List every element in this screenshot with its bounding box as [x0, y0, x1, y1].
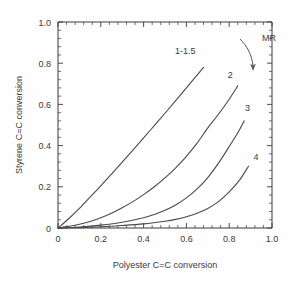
y-tick-label: 1.0 [38, 18, 51, 28]
curve-label-4: 4 [253, 152, 258, 162]
line-chart: 00.20.40.60.81.0 00.20.40.60.81.0 1-1.52… [0, 0, 296, 281]
y-tick-label: 0.6 [38, 100, 51, 110]
y-tick-label: 0.4 [38, 141, 51, 151]
curve-label-3: 3 [245, 103, 250, 113]
chart-figure: 00.20.40.60.81.0 00.20.40.60.81.0 1-1.52… [0, 0, 296, 281]
y-tick-label: 0.8 [38, 59, 51, 69]
mr-label: MR [262, 33, 276, 43]
x-tick-label: 0.6 [180, 234, 193, 244]
curve-label-1-1-5: 1-1.5 [175, 46, 196, 56]
x-tick-label: 0 [55, 234, 60, 244]
y-tick-label: 0 [46, 224, 51, 234]
x-tick-label: 0.8 [223, 234, 236, 244]
x-tick-label: 1.0 [266, 234, 279, 244]
y-axis-label: Styrene C=C conversion [14, 76, 24, 174]
x-tick-label: 0.2 [95, 234, 108, 244]
y-tick-label: 0.2 [38, 182, 51, 192]
x-tick-label: 0.4 [137, 234, 150, 244]
curve-label-2: 2 [228, 70, 233, 80]
x-axis-label: Polyester C=C conversion [113, 260, 217, 270]
